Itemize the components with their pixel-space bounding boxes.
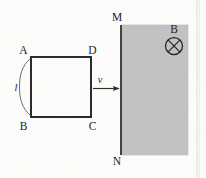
paper-texture <box>0 0 206 178</box>
physics-diagram-figure: A D B C l v M N B <box>0 0 206 178</box>
diagram-canvas: A D B C l v M N B <box>0 0 206 178</box>
